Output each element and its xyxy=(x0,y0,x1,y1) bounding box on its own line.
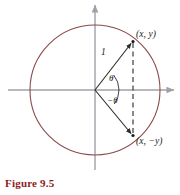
label-theta-positive: θ xyxy=(109,74,114,83)
label-point-lower: (x, −y) xyxy=(136,137,163,147)
point-lower-marker xyxy=(131,134,134,137)
point-upper-marker xyxy=(131,40,134,43)
label-radius-length: 1 xyxy=(101,48,106,58)
figure-container: (x, y) (x, −y) 1 θ −θ Figure 9.5 xyxy=(0,0,180,195)
label-theta-negative: −θ xyxy=(107,96,118,105)
figure-caption: Figure 9.5 xyxy=(5,177,54,189)
angle-arc-positive xyxy=(114,75,119,90)
label-point-upper: (x, y) xyxy=(136,30,156,40)
